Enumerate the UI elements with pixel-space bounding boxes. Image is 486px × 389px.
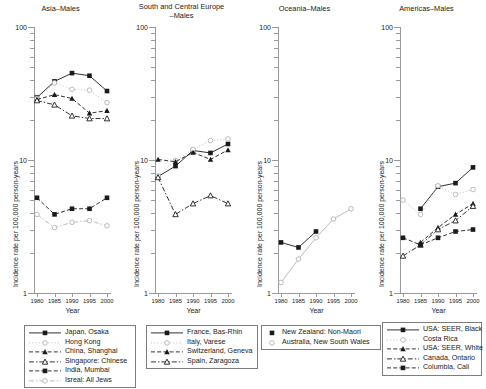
legend-marker-open-triangle-icon bbox=[28, 357, 62, 367]
legend-item: Australia, New South Wales bbox=[265, 338, 377, 348]
legend-item-label: Australia, New South Wales bbox=[279, 338, 370, 348]
legend-item-label: Costa Rica bbox=[420, 335, 458, 345]
legend-marker-open-circle-icon bbox=[150, 338, 184, 348]
legend-marker-filled-square-icon bbox=[150, 328, 184, 338]
chart-panel-4: Americas–Males10010119801985199019952000… bbox=[366, 0, 486, 320]
legend-marker-open-circle-icon bbox=[28, 376, 62, 386]
legend-marker-filled-triangle-icon bbox=[150, 347, 184, 357]
legend-item: Costa Rica bbox=[386, 335, 478, 345]
legend-item: Japan, Osaka bbox=[28, 328, 132, 338]
legend-item-label: France, Bas-Rhin bbox=[184, 328, 242, 338]
legend-marker-filled-square-icon bbox=[265, 328, 279, 338]
legend-item: Isreal: All Jews bbox=[28, 376, 132, 386]
legend-marker-filled-square-icon bbox=[28, 328, 62, 338]
legend-marker-filled-square-icon bbox=[386, 363, 420, 373]
series-layer bbox=[366, 0, 486, 320]
legend-item: Italy, Varese bbox=[150, 338, 254, 348]
series-layer bbox=[0, 0, 121, 320]
legend-marker-filled-square-icon bbox=[386, 325, 420, 335]
legend-panel-2: France, Bas-RhinItaly, VareseSwitzerland… bbox=[146, 325, 258, 369]
legend-panel-1: Japan, OsakaHong KongChina, ShanghaiSing… bbox=[24, 325, 136, 388]
legend-marker-open-circle-icon bbox=[28, 338, 62, 348]
legend-item: Columbia, Cali bbox=[386, 363, 478, 373]
legend-item: China, Shanghai bbox=[28, 347, 132, 357]
legend-item-label: USA: SEER, Black bbox=[420, 325, 482, 335]
chart-panel-1: Asia–Males10010119801985199019952000Year… bbox=[0, 0, 121, 320]
legend-item: Switzerland, Geneva bbox=[150, 347, 254, 357]
legend-marker-filled-triangle-icon bbox=[28, 347, 62, 357]
legend-item-label: Switzerland, Geneva bbox=[184, 347, 252, 357]
chart-panel-3: Oceania–Males10010119801985199019952000Y… bbox=[244, 0, 365, 320]
legend-panel-4: USA: SEER, BlackCosta RicaUSA: SEER, Whi… bbox=[382, 322, 482, 376]
legend-item-label: USA: SEER, White bbox=[420, 344, 483, 354]
legend-item-label: China, Shanghai bbox=[62, 347, 117, 357]
legend-item-label: Columbia, Cali bbox=[420, 363, 469, 373]
legend-item-label: Singapore: Chinese bbox=[62, 357, 127, 367]
legend-item: USA: SEER, Black bbox=[386, 325, 478, 335]
legend-item: New Zealand: Non-Maori bbox=[265, 328, 377, 338]
chart-panel-2: South and Central Europe–Males1001011980… bbox=[121, 0, 242, 320]
legend-panel-3: New Zealand: Non-MaoriAustralia, New Sou… bbox=[261, 325, 381, 350]
legend-item: France, Bas-Rhin bbox=[150, 328, 254, 338]
legend-marker-filled-triangle-icon bbox=[386, 344, 420, 354]
legend-item: Singapore: Chinese bbox=[28, 357, 132, 367]
legend-item-label: Japan, Osaka bbox=[62, 328, 109, 338]
legend-item-label: Isreal: All Jews bbox=[62, 376, 112, 386]
figure-root: Asia–Males10010119801985199019952000Year… bbox=[0, 0, 486, 389]
legend-item: USA: SEER, White bbox=[386, 344, 478, 354]
legend-marker-open-circle-icon bbox=[265, 338, 279, 348]
legend-item-label: New Zealand: Non-Maori bbox=[279, 328, 361, 338]
legend-marker-open-triangle-icon bbox=[150, 357, 184, 367]
series-layer bbox=[121, 0, 242, 320]
legend-item-label: Spain, Zaragoza bbox=[184, 357, 239, 367]
legend-item-label: India, Mumbai bbox=[62, 366, 110, 376]
legend-item: Canada, Ontario bbox=[386, 354, 478, 364]
legend-item: Spain, Zaragoza bbox=[150, 357, 254, 367]
legend-item: India, Mumbai bbox=[28, 366, 132, 376]
legend-item-label: Italy, Varese bbox=[184, 338, 225, 348]
legend-item-label: Canada, Ontario bbox=[420, 354, 475, 364]
legend-marker-open-triangle-icon bbox=[386, 354, 420, 364]
legend-marker-filled-square-icon bbox=[28, 366, 62, 376]
legend-item: Hong Kong bbox=[28, 338, 132, 348]
legend-item-label: Hong Kong bbox=[62, 338, 101, 348]
legend-marker-open-circle-icon bbox=[386, 335, 420, 345]
series-layer bbox=[244, 0, 365, 320]
